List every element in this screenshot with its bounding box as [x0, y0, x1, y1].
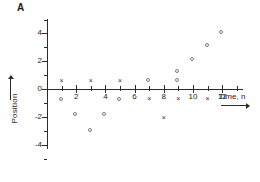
x-axis-arrow	[221, 105, 247, 106]
y-tick-label: 4	[22, 28, 42, 37]
y-tick-minor	[44, 75, 47, 76]
y-tick-label: -4	[22, 140, 42, 149]
y-tick-minor	[44, 159, 47, 160]
y-tick-major	[42, 89, 47, 90]
x-tick-minor	[62, 86, 63, 91]
x-tick-label: 12	[215, 92, 229, 101]
x-tick-label: 10	[186, 92, 200, 101]
data-point-circle	[73, 112, 77, 116]
y-tick-label: 2	[22, 56, 42, 65]
data-point-circle	[175, 69, 179, 73]
data-point-circle	[175, 78, 179, 82]
y-tick-major	[42, 145, 47, 146]
y-axis-line	[47, 19, 48, 149]
data-point-cross: ×	[161, 115, 167, 121]
x-tick-minor	[120, 86, 121, 91]
x-tick-label: 4	[98, 92, 112, 101]
y-tick-minor	[44, 103, 47, 104]
x-tick-minor	[149, 86, 150, 91]
x-tick-label: 2	[69, 92, 83, 101]
y-axis-title: Position	[10, 81, 19, 137]
y-tick-major	[42, 117, 47, 118]
y-tick-major	[42, 33, 47, 34]
data-point-circle	[59, 97, 63, 101]
data-point-circle	[205, 43, 209, 47]
data-point-circle	[146, 78, 150, 82]
y-tick-label: -2	[22, 112, 42, 121]
x-tick-minor	[237, 86, 238, 91]
y-tick-minor	[44, 20, 47, 21]
y-tick-major	[42, 61, 47, 62]
x-tick-label: 6	[128, 92, 142, 101]
data-point-cross: ×	[117, 78, 123, 84]
chart-panel: A Position Time, n 24681012-4-2024 ×××××…	[0, 0, 260, 182]
data-point-cross: ×	[146, 96, 152, 102]
x-tick-minor	[208, 86, 209, 91]
data-point-cross: ×	[59, 78, 65, 84]
y-tick-minor	[44, 131, 47, 132]
x-tick-label: 8	[157, 92, 171, 101]
y-tick-label: 0	[22, 84, 42, 93]
data-point-cross: ×	[175, 96, 181, 102]
data-point-circle	[190, 57, 194, 61]
x-tick-minor	[91, 86, 92, 91]
data-point-circle	[219, 30, 223, 34]
data-point-circle	[88, 128, 92, 132]
data-point-circle	[102, 112, 106, 116]
data-point-circle	[117, 97, 121, 101]
data-point-cross: ×	[88, 78, 94, 84]
y-tick-minor	[44, 47, 47, 48]
panel-label: A	[17, 2, 24, 13]
data-point-cross: ×	[205, 96, 211, 102]
x-tick-minor	[178, 86, 179, 91]
